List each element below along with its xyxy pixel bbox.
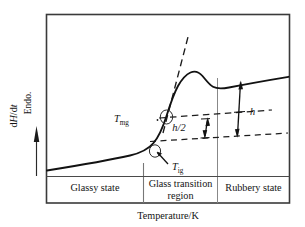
y-axis-direction-label: Endo. xyxy=(22,92,33,115)
glassy-baseline-extrapolation-dashed xyxy=(150,133,288,142)
tmg-label: Tmg xyxy=(114,113,129,127)
region-label-rubbery: Rubbery state xyxy=(225,182,282,193)
y-axis-label: dH/dt xyxy=(8,103,19,127)
region-label-transition-line2: region xyxy=(167,190,193,201)
x-axis-label: Temperature/K xyxy=(137,210,199,221)
h-midpoint-tick xyxy=(234,112,245,113)
heat-flow-curve xyxy=(47,72,289,171)
h-arrow-shaft xyxy=(238,83,241,136)
dsc-thermogram-figure: dH/dt Endo. Tmg Tig h h/2 Glassy state G… xyxy=(0,0,305,227)
inflection-tangent-dashed-line xyxy=(163,37,188,133)
region-label-transition: Glass transition xyxy=(149,178,213,189)
region-label-glassy: Glassy state xyxy=(71,182,120,193)
tmg-dot-marker xyxy=(157,119,159,121)
thermogram-svg: dH/dt Endo. Tmg Tig h h/2 Glassy state G… xyxy=(0,0,305,227)
endo-arrowhead-up-icon xyxy=(34,126,40,142)
h-half-label: h/2 xyxy=(172,122,185,133)
h-label: h xyxy=(250,106,255,117)
tig-label: Tig xyxy=(172,161,184,175)
